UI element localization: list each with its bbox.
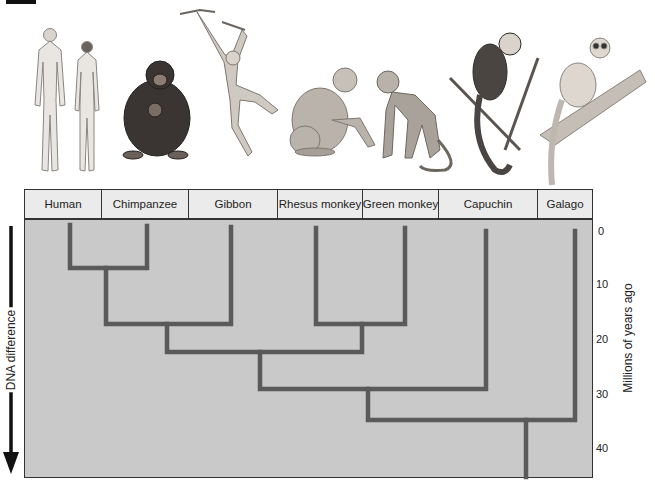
- y-axis-title: Millions of years ago: [621, 283, 635, 392]
- branch-ape-gibbon: [106, 227, 231, 324]
- y-tick-0: 0: [598, 225, 604, 237]
- branch-capuchin: [260, 231, 486, 389]
- y-tick-40: 40: [596, 442, 608, 454]
- dna-difference-label: DNA difference: [4, 308, 18, 393]
- branch-catarrhines: [167, 324, 362, 352]
- branch-human-chimp: [70, 225, 147, 268]
- y-tick-30: 30: [596, 388, 608, 400]
- arrow-down-icon: [3, 452, 19, 474]
- y-tick-20: 20: [596, 333, 608, 345]
- phylogenetic-tree: [0, 0, 655, 482]
- branch-old-world-monkeys: [316, 228, 405, 324]
- y-tick-10: 10: [596, 278, 608, 290]
- dna-difference-arrow: [0, 0, 30, 482]
